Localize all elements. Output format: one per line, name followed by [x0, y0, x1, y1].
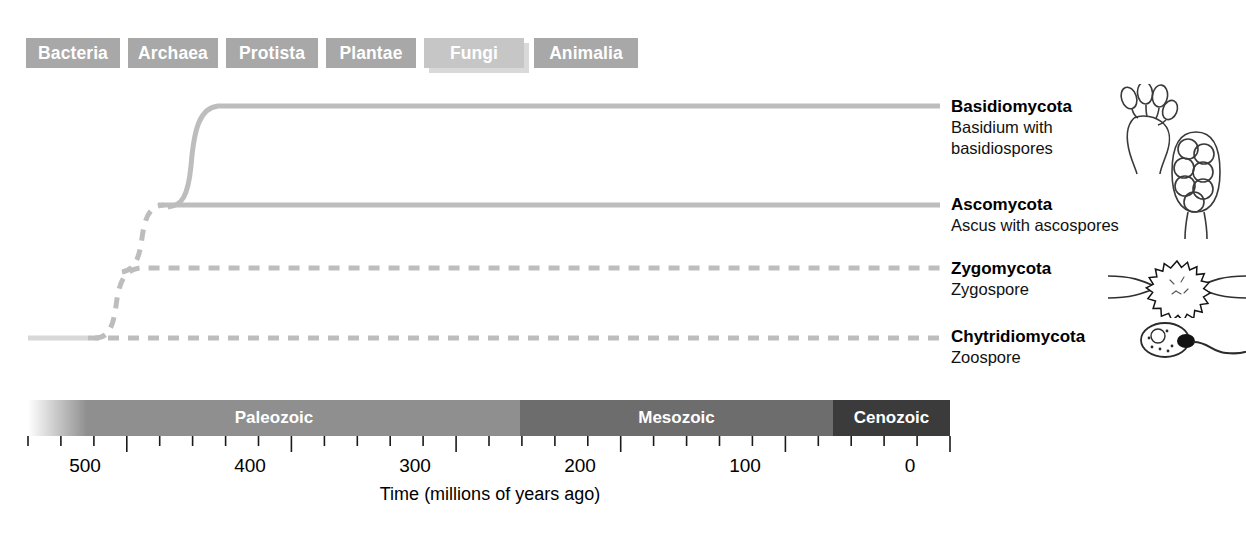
branch-basidiomycota: [168, 106, 940, 207]
geologic-timeline: PaleozoicMesozoicCenozoic: [28, 400, 950, 436]
taxon-name-ascomycota: Ascomycota: [951, 194, 1119, 215]
axis-tick-label-300: 300: [399, 455, 431, 477]
taxon-desc-chytridiomycota: Zoospore: [951, 347, 1085, 368]
era-band-paleozoic: Paleozoic: [28, 400, 520, 436]
taxon-desc-zygomycota: Zygospore: [951, 279, 1051, 300]
axis-title: Time (millions of years ago): [0, 484, 980, 505]
branch-line-basidiomycota: [168, 106, 940, 207]
taxon-basidiomycota: Basidiomycota Basidium withbasidiospores: [951, 96, 1072, 159]
zoospore-icon: [1138, 318, 1246, 368]
axis-tick-label-500: 500: [69, 455, 101, 477]
era-band-cenozoic: Cenozoic: [833, 400, 950, 436]
axis-tick-label-100: 100: [729, 455, 761, 477]
axis-tick-label-200: 200: [564, 455, 596, 477]
taxon-chytridiomycota: Chytridiomycota Zoospore: [951, 326, 1085, 368]
taxon-desc-ascomycota: Ascus with ascospores: [951, 215, 1119, 236]
kingdom-tab-protista[interactable]: Protista: [226, 38, 318, 68]
kingdom-tab-plantae[interactable]: Plantae: [326, 38, 416, 68]
taxon-desc-basidiomycota: Basidium withbasidiospores: [951, 117, 1072, 159]
taxon-name-chytridiomycota: Chytridiomycota: [951, 326, 1085, 347]
zygospore-icon: [1108, 258, 1246, 318]
axis-tick-label-400: 400: [234, 455, 266, 477]
taxon-ascomycota: Ascomycota Ascus with ascospores: [951, 194, 1119, 236]
kingdom-tab-animalia[interactable]: Animalia: [534, 38, 638, 68]
taxon-name-zygomycota: Zygomycota: [951, 258, 1051, 279]
axis-tick-label-0: 0: [905, 455, 916, 477]
phylogenetic-tree: [0, 80, 960, 390]
branch-ascomycota: [122, 205, 940, 272]
time-axis: [0, 436, 980, 466]
kingdom-tab-bacteria[interactable]: Bacteria: [26, 38, 120, 68]
taxon-name-basidiomycota: Basidiomycota: [951, 96, 1072, 117]
kingdom-tab-fungi[interactable]: Fungi: [424, 38, 524, 68]
kingdom-tab-archaea[interactable]: Archaea: [128, 38, 218, 68]
branch-line-zygomycota: [95, 268, 940, 338]
ascus-icon: [1166, 128, 1226, 240]
era-band-mesozoic: Mesozoic: [520, 400, 833, 436]
branch-stem-ascomycota: [122, 205, 164, 272]
taxon-zygomycota: Zygomycota Zygospore: [951, 258, 1051, 300]
branch-zygomycota: [95, 268, 940, 338]
